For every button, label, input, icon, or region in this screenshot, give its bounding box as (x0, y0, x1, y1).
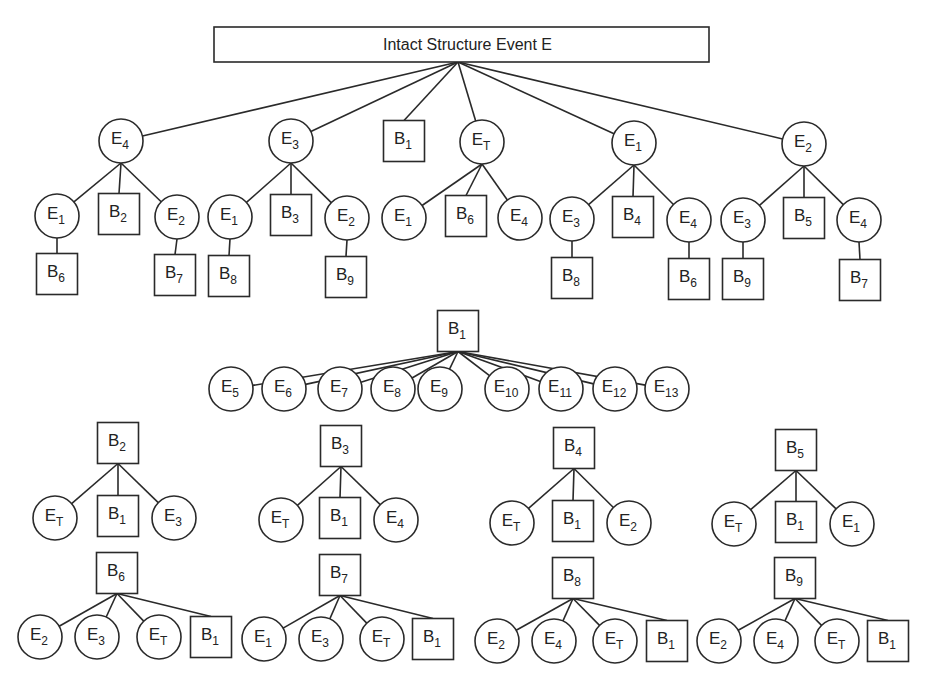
basic-event-node-B1: B1 (868, 621, 909, 662)
event-node-E4: E4 (374, 498, 418, 542)
basic-event-node-B4: B4 (613, 197, 654, 238)
tree-edge (404, 62, 458, 121)
event-node-E1: E1 (35, 194, 79, 238)
event-node-E2: E2 (325, 196, 369, 240)
event-node-E4: E4 (667, 198, 711, 242)
tree-edge (458, 62, 476, 121)
root-event-label: Intact Structure Event E (383, 36, 552, 53)
event-node-E3: E3 (721, 198, 765, 242)
tree-edge (117, 594, 211, 617)
basic-event-node-B9: B9 (723, 259, 764, 300)
event-node-ET: ET (593, 619, 637, 663)
basic-event-node-B9: B9 (326, 257, 367, 298)
event-node-ET: ET (33, 496, 77, 540)
basic-event-node-B7: B7 (320, 555, 361, 596)
event-node-E9: E9 (418, 367, 462, 411)
event-node-E2: E2 (475, 619, 519, 663)
basic-event-node-B9: B9 (775, 558, 816, 599)
event-node-E2: E2 (18, 615, 62, 659)
event-node-ET: ET (815, 619, 859, 663)
event-node-E13: E13 (645, 367, 689, 411)
event-node-E7: E7 (318, 367, 362, 411)
event-node-E11: E11 (539, 367, 583, 411)
basic-event-node-B3: B3 (271, 195, 312, 236)
basic-event-node-B1: B1 (776, 502, 817, 543)
basic-event-node-B4: B4 (554, 428, 595, 469)
basic-event-node-B5: B5 (776, 430, 817, 471)
basic-event-node-B2: B2 (99, 194, 140, 235)
basic-event-node-B1: B1 (98, 496, 139, 537)
tree-edge (573, 599, 667, 621)
event-node-E4: E4 (837, 198, 881, 242)
basic-event-node-B7: B7 (840, 260, 881, 301)
basic-event-node-B7: B7 (155, 255, 196, 296)
basic-event-node-B1: B1 (413, 619, 454, 660)
tree-edge (229, 239, 230, 256)
root-event-box: Intact Structure Event E (214, 27, 709, 62)
basic-event-node-B6: B6 (669, 259, 710, 300)
event-node-ET: ET (137, 615, 181, 659)
basic-event-node-B3: B3 (321, 426, 362, 467)
tree-edge (859, 242, 860, 260)
tree-edge (633, 165, 634, 197)
basic-event-node-B1: B1 (553, 501, 594, 542)
tree-edge (340, 596, 367, 624)
event-node-E4: E4 (754, 619, 798, 663)
tree-edge (795, 599, 822, 626)
event-node-E2: E2 (155, 195, 199, 239)
nodes-layer: E4E3B1ETE1E2E1B2E2B6B7E1B3E2B8B9E1B6E4E3… (18, 119, 909, 663)
tree-edge (175, 239, 177, 255)
event-node-E12: E12 (593, 367, 637, 411)
event-node-E8: E8 (371, 367, 415, 411)
event-node-E4: E4 (532, 619, 576, 663)
event-node-E3: E3 (269, 119, 313, 163)
basic-event-node-B6: B6 (446, 196, 487, 237)
event-node-E1: E1 (242, 617, 286, 661)
basic-event-node-B1: B1 (191, 617, 232, 658)
event-node-E4: E4 (99, 119, 143, 163)
basic-event-node-B8: B8 (553, 558, 594, 599)
event-node-E2: E2 (782, 122, 826, 166)
event-node-E4: E4 (498, 196, 542, 240)
tree-edge (482, 164, 507, 200)
tree-edge (795, 599, 888, 621)
event-node-E3: E3 (152, 496, 196, 540)
tree-edge (573, 469, 574, 501)
event-node-E5: E5 (209, 367, 253, 411)
event-node-E1: E1 (382, 196, 426, 240)
event-node-E1: E1 (612, 121, 656, 165)
event-node-E1: E1 (830, 502, 874, 546)
tree-edge (119, 163, 121, 194)
event-node-E1: E1 (208, 195, 252, 239)
event-node-ET: ET (460, 120, 504, 164)
event-node-E6: E6 (262, 367, 306, 411)
event-node-E3: E3 (550, 197, 594, 241)
event-node-ET: ET (360, 617, 404, 661)
basic-event-node-B5: B5 (784, 198, 825, 239)
event-node-ET: ET (712, 502, 756, 546)
basic-event-node-B1: B1 (438, 311, 479, 352)
tree-edge (340, 596, 433, 619)
event-node-E2: E2 (607, 501, 651, 545)
event-node-ET: ET (490, 501, 534, 545)
fault-tree-diagram: Intact Structure Event E E4E3B1ETE1E2E1B… (0, 0, 932, 687)
event-node-E3: E3 (299, 617, 343, 661)
tree-edge (346, 240, 347, 257)
basic-event-node-B2: B2 (98, 423, 139, 464)
basic-event-node-B6: B6 (37, 254, 78, 295)
basic-event-node-B1: B1 (320, 498, 361, 539)
tree-edge (340, 467, 341, 498)
basic-event-node-B8: B8 (552, 258, 593, 299)
tree-edge (117, 594, 144, 622)
basic-event-node-B1: B1 (647, 621, 688, 662)
event-node-E10: E10 (485, 367, 529, 411)
basic-event-node-B6: B6 (97, 553, 138, 594)
basic-event-node-B8: B8 (209, 256, 250, 297)
event-node-ET: ET (259, 498, 303, 542)
event-node-E3: E3 (75, 615, 119, 659)
basic-event-node-B1: B1 (384, 121, 425, 162)
tree-edge (573, 599, 600, 626)
event-node-E2: E2 (697, 619, 741, 663)
